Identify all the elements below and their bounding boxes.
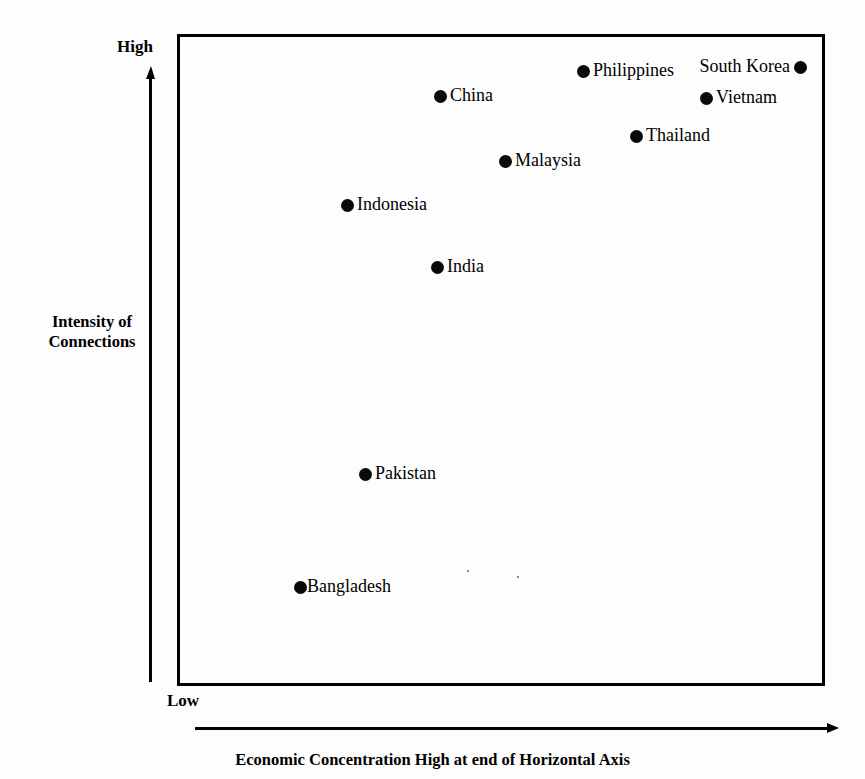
data-point-marker bbox=[577, 65, 590, 78]
data-point-marker bbox=[431, 261, 444, 274]
y-axis-title-line1: Intensity of bbox=[32, 312, 152, 332]
data-point-marker bbox=[294, 581, 307, 594]
scan-speck bbox=[467, 570, 469, 572]
y-axis-title: Intensity of Connections bbox=[32, 312, 152, 352]
data-point-marker bbox=[794, 61, 807, 74]
y-axis-low-label: Low bbox=[167, 692, 199, 710]
y-axis-shaft bbox=[149, 73, 152, 682]
data-point-label: Thailand bbox=[646, 125, 710, 146]
data-point-label: China bbox=[450, 85, 493, 106]
data-point-label: Pakistan bbox=[375, 463, 436, 484]
data-point-marker bbox=[434, 90, 447, 103]
y-axis-high-label: High bbox=[117, 38, 153, 56]
chart-canvas: High Low Intensity of Connections Econom… bbox=[0, 0, 865, 779]
data-point-label: India bbox=[447, 256, 484, 277]
plot-area-frame bbox=[177, 34, 825, 686]
data-point-label: Bangladesh bbox=[307, 576, 391, 597]
data-point-label: South Korea bbox=[700, 56, 790, 77]
data-point-marker bbox=[700, 92, 713, 105]
scan-speck bbox=[517, 576, 519, 578]
data-point-marker bbox=[341, 199, 354, 212]
x-axis-arrowhead-icon bbox=[827, 723, 839, 733]
data-point-label: Indonesia bbox=[357, 194, 427, 215]
data-point-label: Malaysia bbox=[515, 150, 581, 171]
y-axis-title-line2: Connections bbox=[32, 332, 152, 352]
y-axis-arrow bbox=[146, 66, 155, 682]
x-axis-shaft bbox=[195, 727, 830, 730]
data-point-marker bbox=[359, 468, 372, 481]
x-axis-title: Economic Concentration High at end of Ho… bbox=[0, 750, 865, 770]
data-point-marker bbox=[630, 130, 643, 143]
data-point-label: Vietnam bbox=[716, 87, 777, 108]
data-point-marker bbox=[499, 155, 512, 168]
x-axis-arrow bbox=[195, 723, 839, 734]
data-point-label: Philippines bbox=[593, 60, 674, 81]
